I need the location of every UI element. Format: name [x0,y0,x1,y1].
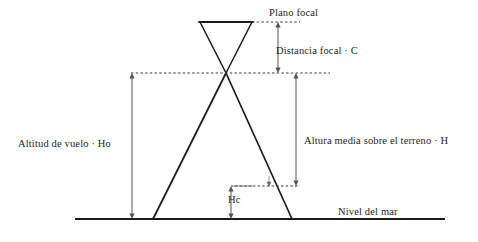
label-hc: Hc [228,194,241,206]
label-nivel-del-mar: Nivel del mar [338,206,398,218]
inverted-triangle-icon [199,22,253,73]
field-of-view-triangle-icon [153,73,292,219]
photogrammetry-diagram: Plano focal Distancia focal · C Altitud … [0,0,478,242]
dimension-arrow-h [293,73,298,186]
label-plano-focal: Plano focal [269,7,318,19]
diagram-canvas [0,0,478,242]
dimension-arrow-ho [129,73,134,219]
label-distancia-focal: Distancia focal · C [276,45,358,57]
label-altitud-de-vuelo: Altitud de vuelo · Ho [18,138,111,150]
mean-terrain-tick-icon [267,176,272,187]
label-altura-media-sobre-el-terreno: Altura media sobre el terreno · H [304,135,448,147]
